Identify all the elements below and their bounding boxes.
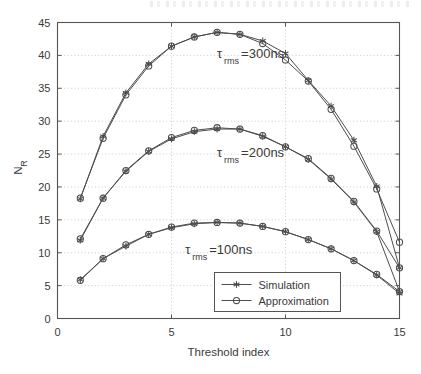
y-tick-label: 35 [38,82,50,94]
series-group-tau-rms-200ns [77,125,402,295]
y-tick-label: 40 [38,49,50,61]
y-tick-label: 20 [38,181,50,193]
x-axis-title: Threshold index [188,346,270,358]
y-tick-label: 25 [38,148,50,160]
annotation-tau-300ns: τrms=300ns [217,46,285,66]
tau-value: =300ns [241,46,285,61]
tau-subscript: rms [224,155,239,165]
tau-value: =100ns [209,242,253,257]
series-line-simulation [80,129,399,291]
tau-symbol: τ [217,46,223,61]
y-axis-title-subscript: R [19,160,29,167]
annotation-tau-100ns: τrms=100ns [185,242,253,262]
x-tick-label: 0 [54,326,60,338]
y-tick-label: 5 [44,280,50,292]
series-line-simulation [80,32,399,267]
x-tick-label: 10 [279,326,291,338]
tau-symbol: τ [217,145,223,160]
y-tick-label: 15 [38,214,50,226]
figure-container: 051015202530354045051015 τrms=300nsτrms=… [0,0,421,374]
y-tick-label: 30 [38,115,50,127]
legend-label: Approximation [259,295,329,307]
tau-subscript: rms [192,252,207,262]
y-tick-label: 10 [38,247,50,259]
legend-label: Simulation [259,279,310,291]
legend[interactable]: SimulationApproximation [215,273,341,312]
y-tick-label: 45 [38,17,50,29]
series-group-tau-rms-300ns [77,29,402,271]
y-tick-label: 0 [44,313,50,325]
y-axis-title: NR [12,160,29,175]
tau-subscript: rms [224,56,239,66]
annotation-tau-200ns: τrms=200ns [217,145,285,165]
tau-symbol: τ [185,242,191,257]
axis-titles: Threshold indexNR [12,160,270,358]
x-tick-label: 5 [168,326,174,338]
tau-value: =200ns [241,145,285,160]
x-tick-label: 15 [393,326,405,338]
line-chart: 051015202530354045051015 τrms=300nsτrms=… [0,0,421,374]
star-marker [77,237,83,244]
annotations: τrms=300nsτrms=200nsτrms=100ns [185,46,284,262]
